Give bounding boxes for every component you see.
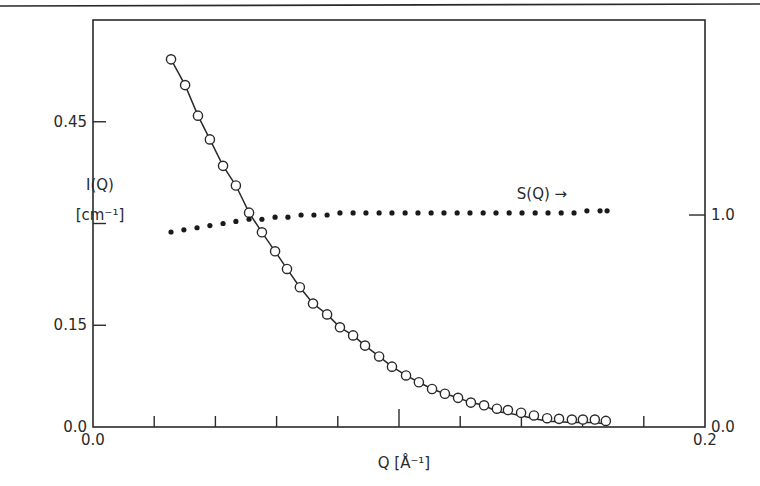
iq-data-point [387,362,396,371]
y-left-tick-label: 0.15 [54,316,87,334]
iq-data-point [466,398,475,407]
iq-data-point [427,384,436,393]
sq-data-point [429,210,434,215]
sq-data-point [519,210,524,215]
iq-data-point [193,111,202,120]
sq-data-point [311,212,316,217]
sq-data-point [571,210,576,215]
iq-data-point [479,401,488,410]
iq-data-point [244,208,253,217]
sq-data-point [272,215,277,220]
iq-data-point [492,404,501,413]
sq-data-point [533,210,538,215]
iq-data-point [257,228,266,237]
sq-data-point [220,221,225,226]
sq-data-point [168,229,173,234]
y-left-title-line2: [cm⁻¹] [76,206,125,224]
sq-data-point [584,208,589,213]
sq-data-point [298,212,303,217]
iq-data-point [166,55,175,64]
iq-data-point [295,283,304,292]
iq-data-point [440,389,449,398]
sq-data-point [194,225,199,230]
sq-data-point [285,215,290,220]
sq-data-point [363,210,368,215]
iq-data-point [578,415,587,424]
iq-data-point [453,393,462,402]
sq-data-point [455,210,460,215]
top-rule [0,4,760,6]
sq-data-point [337,210,342,215]
sq-data-point [467,210,472,215]
iq-data-point [375,352,384,361]
sq-data-point [441,210,446,215]
y-right-tick-label: 1.0 [711,206,735,224]
sq-data-point [259,217,264,222]
sq-data-point [545,210,550,215]
iq-data-point [590,415,599,424]
sq-data-point [324,212,329,217]
iq-data-point [503,405,512,414]
iq-data-point [414,378,423,387]
sq-data-point [493,210,498,215]
iq-data-point [401,371,410,380]
iq-data-point [543,414,552,423]
sq-data-point [207,223,212,228]
iq-data-point [529,411,538,420]
iq-data-point [554,414,563,423]
sq-data-point [507,210,512,215]
axis-tick-labels: 0.00.150.450.01.00.00.2 [54,113,735,449]
iq-data-point [270,247,279,256]
sq-data-point [403,210,408,215]
sq-data-point [604,208,609,213]
y-left-tick-label: 0.45 [54,113,87,131]
sq-data-point [351,210,356,215]
iq-data-point [567,415,576,424]
axis-ticks [93,122,705,427]
iq-data-point [516,408,525,417]
sq-data-point [389,210,394,215]
sq-data-point [415,210,420,215]
sq-data-point [233,219,238,224]
iq-data-point [308,299,317,308]
sq-annotation: S(Q) → [517,185,567,203]
iq-data-point [205,135,214,144]
data-series [166,55,610,426]
x-tick-label: 0.0 [81,431,105,449]
sq-data-point [246,217,251,222]
iq-data-point [335,323,344,332]
iq-data-point [282,264,291,273]
iq-data-point [181,81,190,90]
sq-data-point [181,227,186,232]
y-left-title-line1: I(Q) [86,176,114,194]
iq-data-point [218,161,227,170]
chart: 0.00.150.450.01.00.00.2 I(Q) [cm⁻¹] Q [Å… [0,0,760,486]
iq-data-point [349,331,358,340]
sq-data-point [377,210,382,215]
iq-data-point [601,416,610,425]
iq-data-point [231,181,240,190]
sq-data-point [559,210,564,215]
sq-data-point [597,208,602,213]
x-tick-label: 0.2 [693,431,717,449]
iq-data-point [360,341,369,350]
x-axis-title: Q [Å⁻¹] [378,453,430,472]
sq-data-point [481,210,486,215]
iq-data-point [322,310,331,319]
